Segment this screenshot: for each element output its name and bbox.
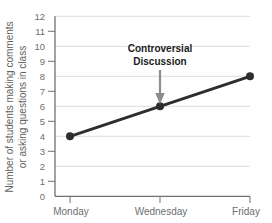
y-tick-label-3: 3 (40, 146, 45, 157)
y-tick-label-7: 7 (40, 86, 45, 97)
x-tick-label-monday: Monday (53, 206, 89, 217)
y-tick-label-2: 2 (40, 161, 45, 172)
chart-canvas: 12 11 10 9 8 7 6 5 4 3 2 1 0 Monday Wedn… (0, 0, 272, 223)
y-tick-label-8: 8 (40, 71, 45, 82)
y-axis-title-line-2: or asking questions in class (17, 46, 28, 168)
y-tick-label-12: 12 (34, 11, 45, 22)
y-tick-label-11: 11 (35, 26, 45, 37)
data-point-friday (246, 72, 254, 80)
annotation-text-line-1: Controversial (128, 43, 193, 54)
y-tick-label-1: 1 (40, 176, 45, 187)
data-point-monday (66, 132, 74, 140)
y-axis-title-line-1: Number of students making comments (4, 21, 15, 192)
x-tick-label-friday: Friday (232, 206, 260, 217)
y-tick-label-5: 5 (40, 116, 45, 127)
y-tick-label-9: 9 (40, 56, 45, 67)
y-tick-label-0: 0 (40, 191, 45, 202)
y-tick-label-10: 10 (34, 41, 45, 52)
x-tick-label-wednesday: Wednesday (135, 206, 188, 217)
y-tick-label-4: 4 (40, 131, 45, 142)
y-tick-label-6: 6 (40, 101, 45, 112)
annotation-text-line-2: Discussion (133, 56, 186, 67)
line-chart-figure: 12 11 10 9 8 7 6 5 4 3 2 1 0 Monday Wedn… (0, 0, 272, 223)
